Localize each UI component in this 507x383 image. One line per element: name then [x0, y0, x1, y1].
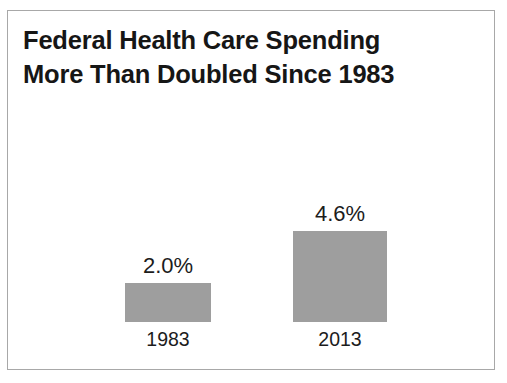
slide-frame: Federal Health Care Spending More Than D… — [7, 10, 495, 370]
bar-category-label-1983: 1983 — [115, 328, 221, 351]
bar-2013[interactable] — [293, 231, 387, 322]
bar-category-label-2013: 2013 — [287, 328, 393, 351]
bar-1983[interactable] — [125, 283, 211, 322]
bar-value-label-2013: 4.6% — [287, 201, 393, 227]
bar-value-label-1983: 2.0% — [115, 253, 221, 279]
bar-chart: 2.0% 1983 4.6% 2013 — [8, 11, 494, 369]
slide-canvas: Federal Health Care Spending More Than D… — [0, 0, 507, 383]
